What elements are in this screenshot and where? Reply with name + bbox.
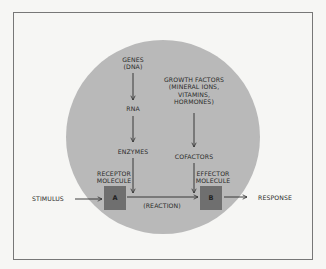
- effector-molecule-label: EFFECTOR MOLECULE: [196, 170, 231, 185]
- rna-label: RNA: [126, 105, 139, 112]
- receptor-text: RECEPTOR: [97, 170, 132, 177]
- growth-factors-sub2: VITAMINS,: [164, 91, 224, 98]
- genes-sub-text: (DNA): [122, 63, 144, 70]
- genes-text: GENES: [122, 56, 144, 63]
- stimulus-label: STIMULUS: [32, 195, 64, 202]
- receptor-molecule-text: MOLECULE: [97, 177, 132, 184]
- box-a-letter: A: [112, 194, 117, 202]
- box-b-letter: B: [209, 194, 214, 202]
- reaction-label: (REACTION): [143, 202, 181, 209]
- genes-label: GENES (DNA): [122, 56, 144, 71]
- response-label: RESPONSE: [258, 194, 292, 201]
- growth-factors-label: GROWTH FACTORS (MINERAL IONS, VITAMINS, …: [164, 76, 224, 106]
- effector-text: EFFECTOR: [196, 170, 231, 177]
- enzymes-label: ENZYMES: [118, 148, 148, 155]
- receptor-molecule-label: RECEPTOR MOLECULE: [97, 170, 132, 185]
- cofactors-label: COFACTORS: [175, 153, 213, 160]
- diagram-canvas: [0, 0, 326, 269]
- growth-factors-sub3: HORMONES): [164, 98, 224, 105]
- growth-factors-sub1: (MINERAL IONS,: [164, 83, 224, 90]
- growth-factors-text: GROWTH FACTORS: [164, 76, 224, 83]
- effector-molecule-text: MOLECULE: [196, 177, 231, 184]
